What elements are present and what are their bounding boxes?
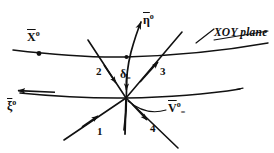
x-axis-label: Xo [27, 30, 40, 43]
ray-2-label: 2 [96, 66, 102, 77]
ray-3-label: 3 [160, 66, 166, 77]
x-axis-point-marker [37, 51, 42, 56]
xoy-plane-leader-line [196, 29, 214, 43]
ray-vertical-down [125, 98, 126, 134]
velocity-label: Vo= [168, 101, 185, 117]
delta-label: δ= [120, 68, 131, 83]
ray-3-arrow [140, 62, 158, 82]
x-axis-label-base: X [27, 30, 36, 44]
ray-1-label: 1 [97, 126, 103, 137]
ray-1-arrow [82, 116, 98, 127]
x-axis-label-degree: o [36, 29, 40, 38]
xi-axis-label-degree: o [12, 98, 16, 107]
figure-canvas [0, 0, 274, 153]
velocity-label-base: V [168, 101, 177, 115]
xi-axis-arrow [18, 91, 55, 93]
lower-surface-curve-tail [236, 88, 243, 89]
eta-axis-label-degree: o [150, 12, 154, 21]
ray-geometry-figure: Xo ηo ξo XOY plane δ= Vo= 2 3 1 4 [0, 0, 274, 153]
xoy-plane-label: XOY plane [214, 27, 267, 39]
xoy-plane-curve [13, 43, 268, 57]
delta-label-subscript: = [126, 74, 131, 83]
ray-4-arrow [132, 104, 147, 120]
eta-axis-label-base: η [143, 13, 150, 27]
ray-4-label: 4 [150, 123, 156, 134]
eta-xoy-intersection-marker [125, 55, 129, 59]
xi-axis-label: ξo [7, 99, 16, 112]
eta-axis-label: ηo [143, 13, 154, 26]
velocity-label-subscript: = [181, 108, 186, 117]
ray-2-arrow [104, 65, 116, 83]
